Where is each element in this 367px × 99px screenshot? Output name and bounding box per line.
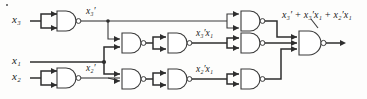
input-label-x1: x₁ xyxy=(12,55,21,66)
node-label-x2-not: x₂′ xyxy=(86,64,96,74)
junction-x3not xyxy=(106,19,110,23)
arrowhead-g6-in2 xyxy=(160,82,166,88)
arrowhead-g2-in1 xyxy=(51,68,57,74)
gate-nand-inverter-x2not-x1 xyxy=(168,69,192,89)
arrowhead-g10-in2 xyxy=(291,40,297,46)
arrowhead-g10-in1 xyxy=(291,34,297,40)
arrowhead-g1-in2 xyxy=(51,25,57,31)
arrowhead-g8-in1 xyxy=(233,35,239,41)
arrowhead-g2-in2 xyxy=(51,82,57,88)
gate-nand-term-x3not xyxy=(241,11,265,31)
junction-x1 xyxy=(102,60,106,64)
input-label-x3: x₃ xyxy=(12,14,21,25)
gate-nand-inverter-x3not-x1 xyxy=(168,33,192,53)
gate-nand-term-x2not-x1 xyxy=(241,69,265,89)
node-label-x3-not-x1: x₃′x₁ xyxy=(196,29,213,39)
arrowhead-g7-in1 xyxy=(233,11,239,17)
arrowhead-g3-in1 xyxy=(114,36,120,42)
arrowhead-g4-in1 xyxy=(160,34,166,40)
node-label-x3-not: x₃′ xyxy=(86,7,96,17)
arrowhead-output xyxy=(340,40,346,46)
node-label-x2-not-x1: x₂′x₁ xyxy=(196,65,213,75)
arrowhead-g6-in1 xyxy=(160,70,166,76)
gate-nand-x3not-x1 xyxy=(122,33,146,53)
arrowhead-g1-in1 xyxy=(51,11,57,17)
gate-nand-output xyxy=(299,31,326,55)
arrowhead-g7-in2 xyxy=(233,25,239,31)
gate-nand-term-x3not-x1 xyxy=(241,33,265,53)
gate-nand-x2not-x1 xyxy=(122,69,146,89)
output-label: x₃′ + x₃′x₁ + x₂′x₁ xyxy=(282,10,352,20)
arrowhead-g9-in2 xyxy=(233,81,239,87)
input-label-x2: x₂ xyxy=(12,71,21,82)
arrowhead-g3-in2 xyxy=(114,44,120,50)
arrowhead-g5-in2 xyxy=(114,78,120,84)
gate-nand-inverter-x3 xyxy=(57,11,81,31)
arrowhead-g4-in2 xyxy=(160,46,166,52)
arrowhead-g9-in1 xyxy=(233,71,239,77)
gate-nand-inverter-x2 xyxy=(57,68,81,88)
arrowhead-g10-in3 xyxy=(291,46,297,52)
logic-circuit-diagram: x₃ x₁ x₂ x₃′ x₂′ x₃′x₁ x₂′x₁ x₃′ + x₃′x₁… xyxy=(0,0,367,99)
arrowhead-g5-in1 xyxy=(114,71,120,77)
arrowhead-g8-in2 xyxy=(233,45,239,51)
